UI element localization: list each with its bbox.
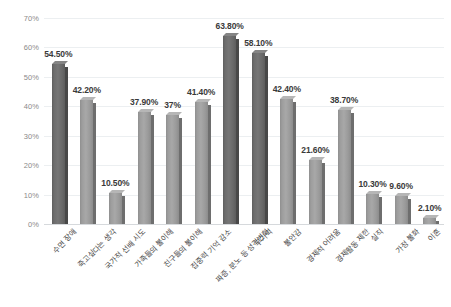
bar-side-face — [265, 56, 268, 224]
bar[interactable]: 9.60% — [395, 196, 408, 224]
category-label-slot: 가정 불화 — [387, 226, 416, 307]
bar-top-face — [138, 109, 154, 112]
bar-value-label: 42.20% — [73, 85, 101, 95]
gridline: 70% — [44, 18, 444, 19]
category-label-slot: 불안감 — [273, 226, 302, 307]
bar-top-face — [338, 107, 354, 110]
y-axis-tick-label: 60% — [24, 43, 39, 52]
gridline: 40% — [44, 106, 444, 107]
category-label-slot: 실직 — [358, 226, 387, 307]
bar-slot: 42.40% — [280, 18, 293, 224]
bar-value-label: 2.10% — [418, 203, 442, 213]
bar-side-face — [322, 163, 325, 224]
bar[interactable]: 41.40% — [195, 102, 208, 224]
bar-side-face — [379, 197, 382, 224]
bar-value-label: 21.60% — [301, 145, 329, 155]
bar[interactable]: 38.70% — [338, 110, 351, 224]
bar-side-face — [65, 67, 68, 224]
bar[interactable]: 10.50% — [109, 193, 122, 224]
bar-top-face — [52, 61, 68, 64]
category-axis-label: 이혼 — [427, 228, 442, 243]
bar[interactable]: 42.20% — [80, 100, 93, 224]
bar-top-face — [109, 190, 125, 193]
bar-top-face — [223, 33, 239, 36]
category-axis: 수면 장애죽고싶다는 생각국가적 선배 시도가족들의 불이해친구들의 불이해집중… — [44, 226, 444, 307]
bar-slot: 10.30% — [366, 18, 379, 224]
y-axis-tick-label: 0% — [28, 220, 39, 229]
bar-value-label: 37% — [164, 100, 181, 110]
gridline: 10% — [44, 195, 444, 196]
bar-slot: 63.80% — [223, 18, 236, 224]
bar-side-face — [208, 105, 211, 224]
bar-top-face — [395, 193, 411, 196]
bar[interactable]: 54.50% — [52, 64, 65, 224]
bar-value-label: 58.10% — [244, 38, 272, 48]
bar[interactable]: 37% — [166, 115, 179, 224]
gridline: 30% — [44, 136, 444, 137]
bar-chart: 0%10%20%30%40%50%60%70% 54.50%42.20%10.5… — [0, 0, 451, 307]
y-axis-tick-label: 20% — [24, 161, 39, 170]
bar-value-label: 10.50% — [101, 178, 129, 188]
category-label-slot: 수면 장애 — [44, 226, 73, 307]
category-label-slot: 국가적 선배 시도 — [101, 226, 130, 307]
bar-slot: 9.60% — [395, 18, 408, 224]
category-axis-label: 실직 — [370, 228, 385, 243]
y-axis-tick-label: 30% — [24, 131, 39, 140]
bar-side-face — [179, 118, 182, 224]
bar-value-label: 37.90% — [130, 97, 158, 107]
bar[interactable]: 2.10% — [423, 218, 436, 224]
bar-side-face — [151, 115, 154, 224]
bar[interactable]: 42.40% — [280, 99, 293, 224]
bar-top-face — [309, 157, 325, 160]
bar-value-label: 41.40% — [187, 87, 215, 97]
bar[interactable]: 37.90% — [138, 112, 151, 224]
bar-slot: 41.40% — [195, 18, 208, 224]
category-label-slot: 이혼 — [415, 226, 444, 307]
bar-side-face — [351, 113, 354, 224]
x-axis-line: 0% — [44, 224, 444, 225]
bar-slot: 10.50% — [109, 18, 122, 224]
y-axis-tick-label: 50% — [24, 72, 39, 81]
category-axis-label: 무기력 — [254, 228, 274, 248]
y-axis-tick-label: 10% — [24, 190, 39, 199]
bar[interactable]: 21.60% — [309, 160, 322, 224]
bar-value-label: 9.60% — [389, 181, 413, 191]
gridline: 50% — [44, 77, 444, 78]
bar[interactable]: 58.10% — [252, 53, 265, 224]
bar-top-face — [80, 97, 96, 100]
bar-value-label: 63.80% — [216, 21, 244, 31]
bar-top-face — [166, 112, 182, 115]
bar-side-face — [408, 199, 411, 224]
bar-side-face — [122, 196, 125, 224]
bar-top-face — [423, 215, 439, 218]
bar-top-face — [280, 96, 296, 99]
bar-top-face — [195, 99, 211, 102]
bar-slot: 2.10% — [423, 18, 436, 224]
category-label-slot: 짜증, 분노 등 성격변화 — [215, 226, 244, 307]
bar-slot: 37.90% — [138, 18, 151, 224]
bar-value-label: 54.50% — [44, 49, 72, 59]
plot-area: 0%10%20%30%40%50%60%70% 54.50%42.20%10.5… — [44, 18, 444, 224]
y-axis-tick-label: 70% — [24, 14, 39, 23]
gridline: 20% — [44, 165, 444, 166]
bar-slot: 58.10% — [252, 18, 265, 224]
category-label-slot: 무기력 — [244, 226, 273, 307]
bar[interactable]: 10.30% — [366, 194, 379, 224]
y-axis-tick-label: 40% — [24, 102, 39, 111]
category-label-slot: 집중력 기억 감소 — [187, 226, 216, 307]
bar-side-face — [236, 39, 239, 224]
bar-value-label: 10.30% — [358, 179, 386, 189]
bar-side-face — [293, 102, 296, 224]
category-label-slot: 친구들의 불이해 — [158, 226, 187, 307]
bar[interactable]: 63.80% — [223, 36, 236, 224]
bar-side-face — [436, 221, 439, 224]
bar-slot: 54.50% — [52, 18, 65, 224]
bar-side-face — [93, 103, 96, 224]
category-axis-label: 불안감 — [282, 228, 302, 248]
bar-value-label: 38.70% — [330, 95, 358, 105]
category-label-slot: 경제적 어려움 — [301, 226, 330, 307]
bar-top-face — [252, 50, 268, 53]
bar-slot: 38.70% — [338, 18, 351, 224]
bar-slot: 42.20% — [80, 18, 93, 224]
bar-slot: 37% — [166, 18, 179, 224]
